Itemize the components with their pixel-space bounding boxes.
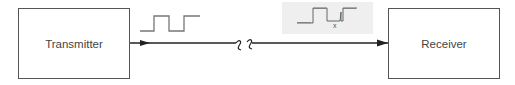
- channel-break-icon: [236, 41, 241, 50]
- arrow-head-icon: [140, 40, 150, 46]
- signal-line: [130, 40, 388, 51]
- arrow-head-icon: [377, 40, 388, 47]
- noise-marker-label: x: [333, 22, 337, 29]
- transmitted-waveform: [140, 16, 200, 31]
- diagram-lines: [0, 0, 515, 85]
- received-waveform: [297, 8, 357, 23]
